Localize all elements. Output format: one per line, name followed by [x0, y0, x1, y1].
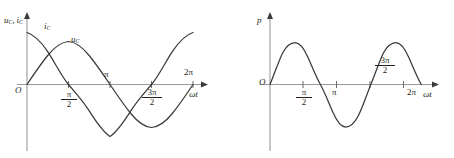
chart-panel-right: p O ωt π 2 π 3π 2 2π	[227, 0, 454, 158]
x-axis-arrow	[432, 82, 439, 88]
curve-label-voltage: uC	[71, 35, 80, 44]
y-axis-arrow	[24, 12, 30, 19]
curve-label-voltage-subscript: C	[76, 38, 80, 44]
tick-3pi-over-2-denominator: 2	[375, 65, 395, 75]
tick-label-2pi-right: 2π	[407, 88, 416, 97]
tick-label-pi-over-2-left: π 2	[61, 90, 77, 109]
curve-label-current-subscript: C	[47, 25, 51, 31]
y-axis-arrow	[267, 12, 273, 19]
tick-label-pi-over-2-right: π 2	[296, 88, 312, 107]
tick-label-pi-right: π	[332, 88, 337, 97]
tick-label-2pi-left: 2π	[184, 68, 193, 77]
y-axis-label-i-subscript: C	[19, 19, 23, 25]
tick-3pi-over-2-denominator: 2	[142, 97, 162, 107]
tick-label-3pi-over-2-left: 3π 2	[142, 88, 162, 107]
tick-label-3pi-over-2-right: 3π 2	[375, 56, 395, 75]
y-axis-label-right: p	[257, 16, 262, 25]
chart-panel-left: uC, iC O ωt iC uC π 2π π 2 3π 2	[0, 0, 227, 158]
origin-label-left: O	[15, 86, 22, 95]
origin-label-right: O	[259, 78, 266, 87]
tick-pi-over-2-denominator: 2	[61, 99, 77, 109]
tick-3pi-over-2-numerator: 3π	[375, 56, 395, 65]
tick-pi-over-2-numerator: π	[61, 90, 77, 99]
x-axis-arrow	[201, 82, 208, 88]
figure-canvas: uC, iC O ωt iC uC π 2π π 2 3π 2	[0, 0, 454, 158]
tick-3pi-over-2-numerator: 3π	[142, 88, 162, 97]
tick-label-pi-left: π	[104, 70, 109, 79]
x-axis-label-left: ωt	[189, 90, 198, 99]
left-chart-svg	[0, 0, 227, 158]
curve-label-current: iC	[44, 22, 51, 31]
x-axis-label-right: ωt	[423, 90, 432, 99]
y-axis-label-left: uC, iC	[4, 16, 23, 25]
tick-pi-over-2-denominator: 2	[296, 97, 312, 107]
tick-pi-over-2-numerator: π	[296, 88, 312, 97]
